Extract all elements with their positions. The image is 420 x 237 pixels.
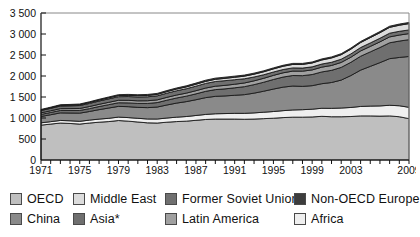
- legend-item-middle-east[interactable]: Middle East: [73, 190, 156, 208]
- x-tick-label: 1995: [262, 164, 286, 176]
- legend-item-asia[interactable]: Asia*: [73, 210, 120, 228]
- legend-label: OECD: [27, 192, 64, 206]
- legend-swatch-icon: [165, 213, 177, 225]
- legend-label: China: [27, 212, 60, 226]
- chart-legend: OECDMiddle EastFormer Soviet UnionNon-OE…: [0, 188, 416, 237]
- legend-label: Middle East: [90, 192, 156, 206]
- y-tick-label: 1 500: [10, 91, 36, 103]
- legend-swatch-icon: [165, 193, 177, 205]
- legend-item-former-soviet-union[interactable]: Former Soviet Union: [165, 190, 299, 208]
- legend-swatch-icon: [73, 213, 85, 225]
- legend-row-top: OECDMiddle EastFormer Soviet UnionNon-OE…: [0, 190, 416, 208]
- stacked-area-chart-svg: 05001 0001 5002 0002 5003 0003 500197119…: [0, 0, 416, 186]
- legend-swatch-icon: [294, 193, 306, 205]
- x-tick-label: 1999: [300, 164, 324, 176]
- legend-swatch-icon: [73, 193, 85, 205]
- y-tick-label: 3 000: [10, 28, 36, 40]
- legend-item-non-oecd-europe[interactable]: Non-OECD Europe: [294, 190, 420, 208]
- legend-item-oecd[interactable]: OECD: [10, 190, 64, 208]
- legend-row-bottom: ChinaAsia*Latin AmericaAfrica: [0, 210, 416, 228]
- x-tick-label: 1979: [107, 164, 131, 176]
- x-tick-label: 1975: [68, 164, 92, 176]
- legend-swatch-icon: [10, 213, 22, 225]
- x-tick-label: 1991: [223, 164, 247, 176]
- y-tick-label: 2 500: [10, 49, 36, 61]
- x-tick-label: 1987: [184, 164, 208, 176]
- x-axis-labels: 1971197519791983198719911995199920032009: [29, 164, 416, 176]
- y-tick-label: 1 000: [10, 112, 36, 124]
- legend-label: Former Soviet Union: [182, 192, 299, 206]
- y-tick-label: 500: [18, 133, 36, 145]
- legend-label: Asia*: [90, 212, 120, 226]
- legend-label: Non-OECD Europe: [311, 192, 420, 206]
- y-tick-label: 3 500: [10, 7, 36, 19]
- legend-item-latin-america[interactable]: Latin America: [165, 210, 259, 228]
- x-tick-label: 1983: [146, 164, 170, 176]
- y-tick-label: 2 000: [10, 70, 36, 82]
- legend-label: Africa: [311, 212, 344, 226]
- legend-item-africa[interactable]: Africa: [294, 210, 344, 228]
- legend-label: Latin America: [182, 212, 259, 226]
- legend-swatch-icon: [10, 193, 22, 205]
- x-tick-label: 1971: [29, 164, 53, 176]
- x-tick-label: 2009: [397, 164, 416, 176]
- legend-item-china[interactable]: China: [10, 210, 60, 228]
- chart-plot-region: 05001 0001 5002 0002 5003 0003 500197119…: [0, 0, 416, 186]
- legend-swatch-icon: [294, 213, 306, 225]
- x-tick-label: 2003: [339, 164, 363, 176]
